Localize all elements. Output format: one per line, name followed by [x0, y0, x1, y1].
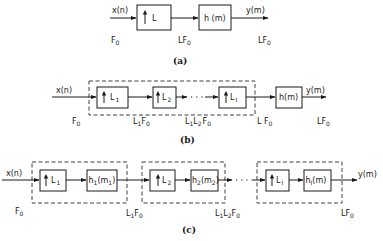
output-label-y-m: y(m) [246, 6, 265, 15]
upsample-factor: L [152, 14, 157, 23]
filter-box-h2-m2: h2(m2) [191, 170, 219, 191]
stage-1: L1 h1(m1) [32, 162, 127, 203]
rate-label-l1f0: L1F0 [133, 117, 150, 127]
caption-c: (c) [182, 225, 196, 235]
upsampler-box-LI: LI [266, 170, 289, 191]
upsampler-box-L: L [137, 5, 171, 30]
rate-label-lf0-output: LF0 [258, 36, 271, 46]
rate-label-lf0: LF0 [341, 209, 354, 219]
multistage-interpolation-diagram: x(n) L h (m) y(m) F0 LF0 LF0 (a) x(n) [0, 0, 383, 241]
output-label-y-m: y(m) [358, 170, 377, 179]
svg-text:h(m): h(m) [279, 93, 298, 102]
stage-I: LI hI(m) [257, 162, 342, 203]
filter-box-hI-m: hI(m) [304, 170, 331, 191]
input-label-x-n: x(n) [6, 169, 22, 178]
rate-label-l1l2f0: L1L2F0 [215, 209, 240, 219]
rate-label-f0: F0 [72, 117, 81, 127]
upsampler-box-LI: LI [219, 87, 246, 108]
rate-label-lf0: LF0 [178, 36, 191, 46]
panel-a: x(n) L h (m) y(m) F0 LF0 LF0 (a) [110, 5, 271, 66]
panel-c: x(n) L1 h1(m1) [2, 162, 377, 235]
rate-label-l1f0: L1F0 [126, 209, 143, 219]
upsampler-box-L2: L2 [150, 170, 175, 191]
rate-label-f0: F0 [111, 36, 120, 46]
filter-box-h-m: h(m) [276, 87, 302, 108]
input-label-x-n: x(n) [112, 6, 128, 15]
stage-2: L2 h2(m2) [142, 162, 225, 203]
caption-a: (a) [173, 56, 187, 66]
rate-label-f0: F0 [15, 207, 24, 217]
caption-b: (b) [180, 135, 195, 145]
upsampler-box-L1: L1 [97, 87, 128, 108]
input-label-x-n: x(n) [56, 86, 72, 95]
output-label-y-m: y(m) [306, 86, 325, 95]
filter-box-h-m: h (m) [199, 5, 231, 30]
upsampler-box-L2: L2 [153, 87, 176, 108]
svg-text:h1(m1): h1(m1) [89, 176, 116, 186]
filter-box-h1-m1: h1(m1) [87, 170, 117, 191]
rate-label-lf0-output: LF0 [317, 117, 330, 127]
filter-label: h (m) [204, 14, 226, 23]
upsampler-box-L1: L1 [40, 170, 66, 191]
rate-label-lf0: L F0 [257, 117, 273, 127]
panel-b: x(n) L1 L2 L [52, 81, 330, 145]
rate-label-l1l2f0: L1L2F0 [185, 117, 211, 127]
svg-text:hI(m): hI(m) [306, 176, 327, 186]
svg-text:h2(m2): h2(m2) [192, 176, 219, 186]
